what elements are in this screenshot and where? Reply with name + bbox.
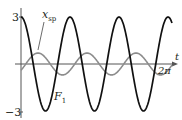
x-tick-label-2pi: 2π: [157, 65, 171, 76]
chart-svg: 3 −3 t 2π xsp F1: [0, 0, 182, 120]
xsp-label: xsp: [42, 8, 57, 23]
x-axis-arrow-icon: [172, 62, 178, 67]
x-axis-label: t: [175, 51, 180, 62]
y-tick-label-3: 3: [12, 11, 19, 24]
y-tick-label-neg3: −3: [5, 106, 21, 119]
chart: 3 −3 t 2π xsp F1: [0, 0, 182, 120]
xsp-leader-line: [38, 22, 44, 50]
f1-label: F1: [53, 90, 66, 105]
